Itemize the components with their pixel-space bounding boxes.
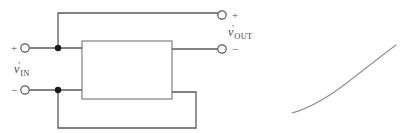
terminal-output-minus <box>218 45 226 53</box>
transfer-characteristic-curve <box>292 45 396 113</box>
circuit-schematic <box>0 0 414 133</box>
input-voltage-subscript: IN <box>20 68 29 78</box>
output-voltage-label: v′OUT <box>228 24 252 41</box>
terminal-output-plus <box>218 11 226 19</box>
terminal-input-minus <box>21 86 29 94</box>
output-plus-sign: + <box>232 10 238 21</box>
terminal-input-plus <box>21 44 29 52</box>
input-voltage-label: v′IN <box>14 61 30 78</box>
output-minus-sign: − <box>232 44 238 55</box>
junction-dot-top <box>55 45 61 51</box>
figure-root: + − v′IN + − v′OUT <box>0 0 414 133</box>
junction-dot-bottom <box>55 87 61 93</box>
input-minus-sign: − <box>11 85 17 96</box>
output-voltage-subscript: OUT <box>234 31 252 41</box>
input-plus-sign: + <box>11 43 17 54</box>
amplifier-block <box>82 41 172 99</box>
